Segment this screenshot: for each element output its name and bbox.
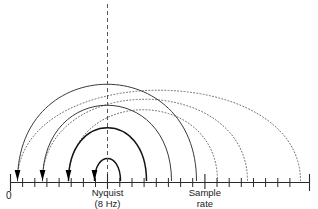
axis-labels: 0 Nyquist (8 Hz) Sample rate (6, 187, 221, 209)
dotted-alias-arcs (18, 90, 301, 181)
alias-arc-7 (18, 90, 301, 181)
arrow-head-1 (15, 170, 21, 181)
nyquist-label: Nyquist (92, 187, 124, 198)
alias-arc-5 (69, 110, 218, 181)
sample-rate-label-line2: rate (197, 198, 213, 209)
frequency-axis (10, 174, 310, 191)
aliasing-diagram: 0 Nyquist (8 Hz) Sample rate (0, 0, 318, 209)
sample-rate-label: Sample (189, 187, 221, 198)
origin-label: 0 (6, 190, 12, 201)
nyquist-frequency-label: (8 Hz) (95, 198, 121, 209)
arrow-head-4 (92, 170, 98, 181)
arrow-heads (15, 170, 98, 181)
arrow-head-2 (40, 170, 46, 181)
diagram-canvas: 0 Nyquist (8 Hz) Sample rate (0, 0, 318, 209)
arrow-head-3 (66, 170, 72, 181)
